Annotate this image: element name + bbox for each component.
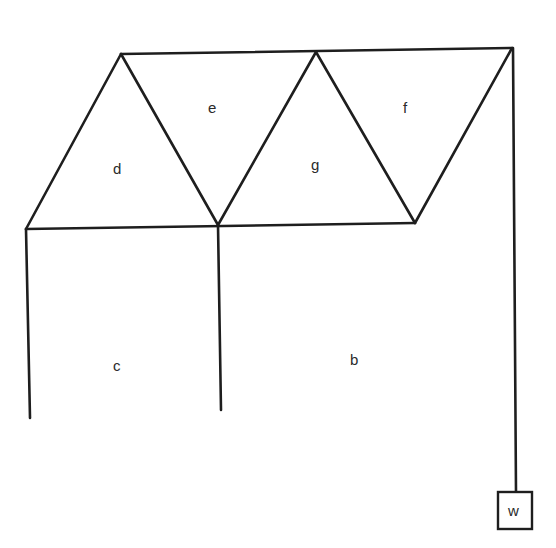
region-label-d: d	[113, 160, 121, 177]
bottom-chord	[26, 223, 415, 229]
region-label-g: g	[311, 156, 319, 173]
left-support	[26, 229, 30, 418]
load-label-w: w	[507, 502, 519, 519]
diagonal-member	[316, 52, 415, 223]
region-label-b: b	[350, 351, 358, 368]
diagonal-member	[26, 54, 121, 229]
diagonal-member	[415, 48, 512, 223]
region-label-f: f	[403, 99, 408, 116]
diagonal-member	[218, 52, 316, 225]
truss-diagram: e f d g c b w	[0, 0, 556, 548]
load-cable	[513, 48, 516, 492]
region-label-c: c	[113, 357, 121, 374]
region-label-e: e	[208, 99, 216, 116]
diagonal-member	[121, 54, 218, 225]
middle-support	[218, 225, 221, 410]
